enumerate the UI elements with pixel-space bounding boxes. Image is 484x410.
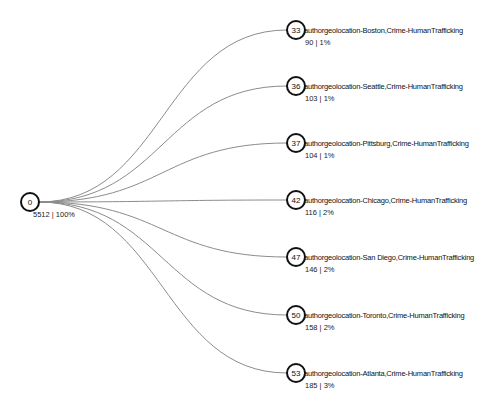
child-node-id: 37 [292, 139, 301, 148]
child-node-id: 42 [292, 196, 301, 205]
tree-link [39, 202, 287, 373]
child-node[interactable]: 50authorgeolocation-Toronto,Crime-HumanT… [287, 306, 465, 332]
child-node-label: authorgeolocation-Pittsburg,Crime-HumanT… [304, 139, 469, 148]
tree-links [39, 30, 287, 373]
child-node-id: 47 [292, 253, 301, 262]
child-node-value: 185 | 3% [305, 381, 335, 390]
root-node[interactable]: 0 5512 | 100% [21, 193, 75, 219]
tree-link [39, 202, 287, 315]
child-node-value: 116 | 2% [305, 208, 334, 217]
child-node-value: 90 | 1% [305, 38, 331, 47]
tree-link [39, 143, 287, 202]
child-node-id: 50 [292, 311, 301, 320]
child-node-label: authorgeolocation-Toronto,Crime-HumanTra… [304, 311, 465, 320]
root-node-value: 5512 | 100% [33, 210, 75, 219]
tree-link [39, 202, 287, 257]
tree-link [39, 86, 287, 202]
tree-link [39, 30, 287, 202]
tree-diagram: 33authorgeolocation-Boston,Crime-HumanTr… [0, 0, 484, 410]
child-node-value: 146 | 2% [305, 265, 335, 274]
child-node[interactable]: 42authorgeolocation-Chicago,Crime-HumanT… [287, 191, 467, 217]
child-node-id: 53 [292, 369, 301, 378]
child-node-id: 33 [292, 26, 301, 35]
child-node[interactable]: 47authorgeolocation-San Diego,Crime-Huma… [287, 248, 474, 274]
child-node-value: 158 | 2% [305, 323, 335, 332]
child-node[interactable]: 36authorgeolocation-Seattle,Crime-HumanT… [287, 77, 463, 103]
child-node-label: authorgeolocation-San Diego,Crime-HumanT… [304, 253, 474, 262]
child-node-label: authorgeolocation-Seattle,Crime-HumanTra… [304, 82, 463, 91]
root-node-id: 0 [28, 198, 33, 207]
child-node-id: 36 [292, 82, 301, 91]
child-node-value: 104 | 1% [305, 151, 335, 160]
child-node-value: 103 | 1% [305, 94, 335, 103]
child-node[interactable]: 37authorgeolocation-Pittsburg,Crime-Huma… [287, 134, 469, 160]
child-node-label: authorgeolocation-Atlanta,Crime-HumanTra… [304, 369, 463, 378]
child-node[interactable]: 53authorgeolocation-Atlanta,Crime-HumanT… [287, 364, 463, 390]
child-node[interactable]: 33authorgeolocation-Boston,Crime-HumanTr… [287, 21, 463, 47]
child-node-label: authorgeolocation-Boston,Crime-HumanTraf… [304, 26, 463, 35]
child-node-label: authorgeolocation-Chicago,Crime-HumanTra… [304, 196, 467, 205]
